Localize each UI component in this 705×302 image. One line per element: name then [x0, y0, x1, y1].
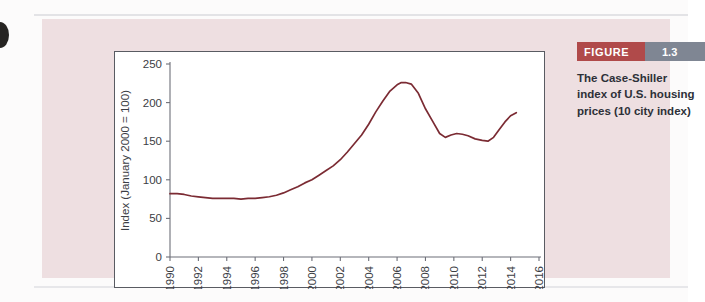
- x-tick-label: 2012: [476, 266, 488, 289]
- y-tick-label: 150: [143, 135, 162, 147]
- y-tick-label: 50: [149, 212, 162, 224]
- page-top-rule: [34, 14, 688, 16]
- x-tick-label: 1998: [278, 266, 290, 289]
- figure-badge-number: 1.3: [645, 42, 705, 61]
- y-tick-label: 0: [156, 251, 162, 263]
- line-chart: 0501001502002501990199219941996199820002…: [115, 52, 546, 289]
- y-axis-title: Index (January 2000 = 100): [119, 90, 131, 231]
- x-tick-label: 2008: [419, 266, 431, 289]
- x-tick-label: 2000: [306, 266, 318, 289]
- figure-caption-text: The Case-Shiller index of U.S. housing p…: [577, 70, 699, 119]
- chart-card: 0501001502002501990199219941996199820002…: [114, 51, 545, 288]
- x-tick-label: 2010: [448, 266, 460, 289]
- y-tick-label: 250: [143, 58, 162, 70]
- figure-caption-block: FIGURE 1.3 The Case-Shiller index of U.S…: [577, 42, 705, 119]
- series-line: [170, 83, 516, 200]
- x-tick-label: 1992: [192, 266, 204, 289]
- x-tick-label: 2014: [505, 265, 517, 289]
- figure-badge-label: FIGURE: [577, 42, 645, 61]
- figure-badge: FIGURE 1.3: [577, 42, 705, 61]
- y-tick-label: 100: [143, 174, 162, 186]
- x-tick-label: 2016: [533, 266, 545, 289]
- x-tick-label: 1990: [164, 266, 176, 289]
- x-tick-label: 2004: [363, 265, 375, 289]
- x-tick-label: 1996: [249, 266, 261, 289]
- y-tick-label: 200: [143, 97, 162, 109]
- x-tick-label: 2006: [391, 266, 403, 289]
- figure-panel: 0501001502002501990199219941996199820002…: [42, 19, 670, 278]
- x-tick-label: 2002: [334, 266, 346, 289]
- x-tick-label: 1994: [221, 265, 233, 289]
